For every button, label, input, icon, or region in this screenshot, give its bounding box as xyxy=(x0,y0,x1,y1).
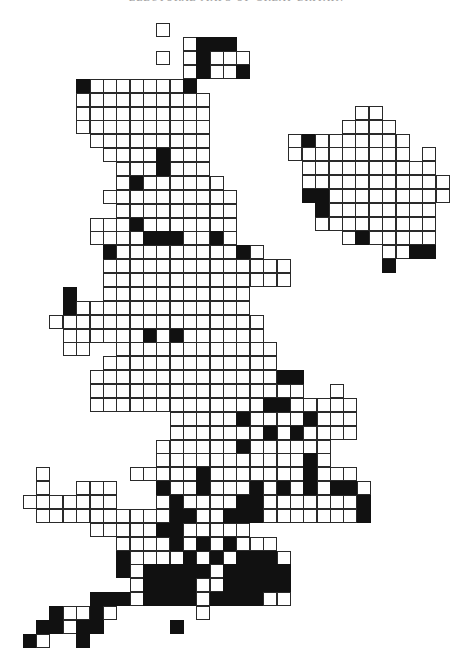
empty-constituency-cell xyxy=(130,509,144,523)
filled-constituency-cell xyxy=(277,370,291,384)
empty-constituency-cell xyxy=(263,259,277,273)
empty-constituency-cell xyxy=(156,315,170,329)
empty-constituency-cell xyxy=(170,398,184,412)
empty-constituency-cell xyxy=(103,273,117,287)
empty-constituency-cell xyxy=(156,218,170,232)
empty-constituency-cell xyxy=(223,453,237,467)
empty-constituency-cell xyxy=(170,481,184,495)
filled-constituency-cell xyxy=(263,578,277,592)
empty-constituency-cell xyxy=(170,287,184,301)
empty-constituency-cell xyxy=(183,315,197,329)
empty-constituency-cell xyxy=(196,551,210,565)
empty-constituency-cell xyxy=(382,120,396,134)
empty-constituency-cell xyxy=(183,412,197,426)
filled-constituency-cell xyxy=(196,65,210,79)
empty-constituency-cell xyxy=(116,329,130,343)
filled-constituency-cell xyxy=(76,634,90,648)
empty-constituency-cell xyxy=(290,412,304,426)
empty-constituency-cell xyxy=(250,426,264,440)
empty-constituency-cell xyxy=(143,287,157,301)
empty-constituency-cell xyxy=(396,189,410,203)
empty-constituency-cell xyxy=(382,203,396,217)
empty-constituency-cell xyxy=(329,147,343,161)
empty-constituency-cell xyxy=(116,370,130,384)
empty-constituency-cell xyxy=(103,315,117,329)
filled-constituency-cell xyxy=(170,509,184,523)
filled-constituency-cell xyxy=(183,578,197,592)
empty-constituency-cell xyxy=(250,329,264,343)
empty-constituency-cell xyxy=(315,161,329,175)
filled-constituency-cell xyxy=(250,564,264,578)
filled-constituency-cell xyxy=(103,245,117,259)
empty-constituency-cell xyxy=(277,592,291,606)
empty-constituency-cell xyxy=(170,148,184,162)
empty-constituency-cell xyxy=(382,217,396,231)
empty-constituency-cell xyxy=(196,342,210,356)
filled-constituency-cell xyxy=(170,495,184,509)
empty-constituency-cell xyxy=(170,315,184,329)
empty-constituency-cell xyxy=(90,384,104,398)
empty-constituency-cell xyxy=(369,161,383,175)
empty-constituency-cell xyxy=(357,481,371,495)
empty-constituency-cell xyxy=(143,301,157,315)
empty-constituency-cell xyxy=(156,134,170,148)
filled-constituency-cell xyxy=(156,523,170,537)
empty-constituency-cell xyxy=(90,481,104,495)
empty-constituency-cell xyxy=(288,147,302,161)
filled-constituency-cell xyxy=(236,578,250,592)
filled-constituency-cell xyxy=(277,564,291,578)
filled-constituency-cell xyxy=(250,578,264,592)
empty-constituency-cell xyxy=(330,384,344,398)
empty-constituency-cell xyxy=(290,481,304,495)
empty-constituency-cell xyxy=(156,93,170,107)
filled-constituency-cell xyxy=(170,231,184,245)
empty-constituency-cell xyxy=(170,453,184,467)
empty-constituency-cell xyxy=(342,120,356,134)
empty-constituency-cell xyxy=(342,203,356,217)
empty-constituency-cell xyxy=(210,287,224,301)
empty-constituency-cell xyxy=(317,440,331,454)
empty-constituency-cell xyxy=(170,204,184,218)
empty-constituency-cell xyxy=(317,509,331,523)
empty-constituency-cell xyxy=(63,342,77,356)
empty-constituency-cell xyxy=(90,315,104,329)
empty-constituency-cell xyxy=(396,217,410,231)
empty-constituency-cell xyxy=(223,467,237,481)
empty-constituency-cell xyxy=(143,342,157,356)
empty-constituency-cell xyxy=(355,106,369,120)
filled-constituency-cell xyxy=(143,564,157,578)
empty-constituency-cell xyxy=(103,329,117,343)
filled-constituency-cell xyxy=(196,467,210,481)
empty-constituency-cell xyxy=(250,412,264,426)
empty-constituency-cell xyxy=(156,356,170,370)
empty-constituency-cell xyxy=(170,440,184,454)
empty-constituency-cell xyxy=(143,273,157,287)
empty-constituency-cell xyxy=(130,273,144,287)
empty-constituency-cell xyxy=(36,467,50,481)
filled-constituency-cell xyxy=(302,189,316,203)
empty-constituency-cell xyxy=(277,412,291,426)
empty-constituency-cell xyxy=(196,384,210,398)
empty-constituency-cell xyxy=(342,134,356,148)
empty-constituency-cell xyxy=(315,147,329,161)
empty-constituency-cell xyxy=(223,231,237,245)
empty-constituency-cell xyxy=(196,190,210,204)
empty-constituency-cell xyxy=(236,426,250,440)
empty-constituency-cell xyxy=(130,370,144,384)
empty-constituency-cell xyxy=(196,523,210,537)
empty-constituency-cell xyxy=(422,175,436,189)
empty-constituency-cell xyxy=(143,176,157,190)
empty-constituency-cell xyxy=(409,217,423,231)
filled-constituency-cell xyxy=(170,578,184,592)
empty-constituency-cell xyxy=(103,384,117,398)
empty-constituency-cell xyxy=(223,412,237,426)
empty-constituency-cell xyxy=(170,412,184,426)
empty-constituency-cell xyxy=(156,190,170,204)
empty-constituency-cell xyxy=(156,120,170,134)
filled-constituency-cell xyxy=(236,592,250,606)
empty-constituency-cell xyxy=(290,509,304,523)
empty-constituency-cell xyxy=(103,301,117,315)
empty-constituency-cell xyxy=(170,190,184,204)
empty-constituency-cell xyxy=(36,495,50,509)
empty-constituency-cell xyxy=(63,606,77,620)
